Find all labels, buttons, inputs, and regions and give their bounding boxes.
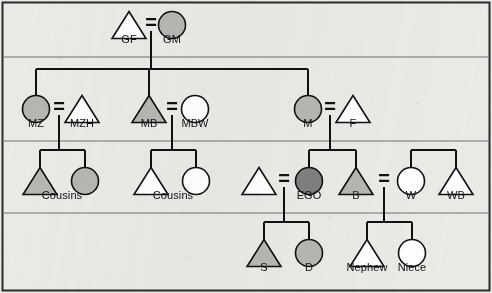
person-label-NEPHEW: Nephew (347, 261, 388, 273)
person-label-B: B (352, 189, 359, 201)
person-label-GM: GM (163, 33, 181, 45)
sibling-group-cousins-right (151, 150, 196, 170)
person-label-NIECE: Niece (398, 261, 427, 273)
person-label-EGO: EGO (297, 189, 322, 201)
marriage-symbol-EGOH-EGO: = (278, 167, 290, 190)
person-symbol-EGOH[interactable] (242, 168, 276, 195)
kinship-diagram: GFGMMZMZHMBMBWMFCousinsCousinsEGOBWWBSDN… (0, 0, 492, 293)
person-label-WB: WB (447, 189, 465, 201)
marriage-symbol-M-F: = (324, 95, 336, 118)
sibling-group-brother-children (367, 222, 412, 242)
sibling-group-ego-children (264, 222, 309, 242)
kinship-canvas (0, 0, 492, 293)
sibling-group-parents-sibship (36, 69, 308, 97)
person-label-M: M (303, 117, 312, 129)
marriage-symbol-GF-GM: = (145, 11, 157, 34)
person-label-MZH: MZH (70, 117, 94, 129)
person-label-COUSINS-R: Cousins (153, 189, 193, 201)
person-label-GF: GF (121, 33, 136, 45)
person-label-MBW: MBW (181, 117, 208, 129)
sibling-group-cousins-left (40, 150, 85, 170)
sibling-group-ego-sibship (309, 150, 356, 170)
person-label-D: D (305, 261, 313, 273)
person-label-F: F (350, 117, 357, 129)
person-label-MB: MB (141, 117, 158, 129)
person-label-S: S (260, 261, 267, 273)
marriage-symbol-MZ-MZH: = (53, 95, 65, 118)
person-label-COUSINS-L: Cousins (42, 189, 82, 201)
marriage-symbol-MB-MBW: = (166, 95, 178, 118)
sibling-group-wife-sibship (411, 150, 456, 170)
person-label-MZ: MZ (28, 117, 44, 129)
person-label-W: W (406, 189, 416, 201)
marriage-symbol-B-W: = (378, 167, 390, 190)
